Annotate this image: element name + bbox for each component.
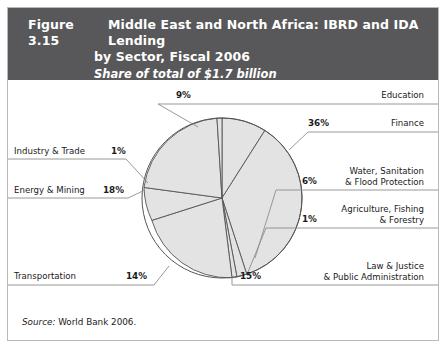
figure-number: Figure 3.15 bbox=[28, 17, 99, 49]
callout-label-agriculture-line2: & Forestry bbox=[380, 215, 424, 226]
callout-pct-finance: 36% bbox=[308, 118, 329, 129]
callout-label-finance: Finance bbox=[391, 118, 424, 129]
callout-label-transportation: Transportation bbox=[14, 271, 76, 282]
figure-header-text: Figure 3.15 Middle East and North Africa… bbox=[28, 17, 432, 82]
callout-label-water-line1: Water, Sanitation bbox=[349, 166, 424, 177]
callout-label-water-line2: & Flood Protection bbox=[345, 177, 424, 188]
callout-pct-industry: 1% bbox=[111, 146, 126, 157]
callout-label-law-line2: & Public Administration bbox=[324, 272, 424, 283]
pie-slice-energy-mining bbox=[144, 118, 222, 198]
figure-container: Figure 3.15 Middle East and North Africa… bbox=[0, 0, 446, 349]
callout-pct-water: 6% bbox=[302, 176, 317, 187]
source-label: Source: bbox=[22, 317, 55, 327]
chart-plot-area: 9% Education 36% Finance 6% Water, Sanit… bbox=[8, 80, 438, 302]
callout-label-industry: Industry & Trade bbox=[14, 146, 85, 157]
callout-pct-transportation: 14% bbox=[126, 271, 147, 282]
callout-pct-agriculture: 1% bbox=[302, 214, 317, 225]
pie-slices bbox=[142, 118, 302, 278]
figure-title-part-2: by Sector, Fiscal 2006 bbox=[94, 49, 432, 65]
leader-line-industry bbox=[8, 159, 148, 183]
figure-header-band: Figure 3.15 Middle East and North Africa… bbox=[8, 8, 438, 80]
callout-pct-education: 9% bbox=[176, 90, 191, 101]
callout-pct-law: 15% bbox=[240, 271, 261, 282]
callout-label-law-line1: Law & Justice bbox=[367, 261, 424, 272]
callout-label-agriculture-line1: Agriculture, Fishing bbox=[341, 204, 424, 215]
source-note: Source: World Bank 2006. bbox=[22, 317, 136, 327]
leader-line-finance bbox=[289, 132, 438, 150]
figure-title-part-1: Middle East and North Africa: IBRD and I… bbox=[108, 17, 432, 49]
callout-pct-energy: 18% bbox=[103, 185, 124, 196]
source-text: World Bank 2006. bbox=[58, 317, 136, 327]
title-line-1: Figure 3.15 Middle East and North Africa… bbox=[28, 17, 432, 49]
callout-label-education: Education bbox=[381, 90, 424, 101]
callout-label-energy: Energy & Mining bbox=[14, 185, 85, 196]
